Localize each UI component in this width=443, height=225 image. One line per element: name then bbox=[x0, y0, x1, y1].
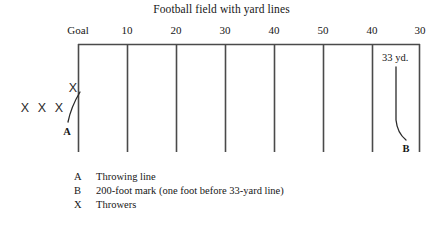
leader-line-b bbox=[396, 67, 406, 140]
legend: A Throwing line B 200-foot mark (one foo… bbox=[74, 170, 284, 213]
thrower-mark-x: X bbox=[38, 102, 46, 115]
legend-desc-a: Throwing line bbox=[96, 170, 156, 184]
label-a-throwing-line: A bbox=[63, 126, 71, 137]
thrower-mark-x: X bbox=[21, 102, 29, 115]
legend-key-a: A bbox=[74, 170, 96, 184]
legend-desc-x: Throwers bbox=[96, 198, 136, 212]
thrower-mark-x: X bbox=[55, 102, 63, 115]
legend-row-b: B 200-foot mark (one foot before 33-yard… bbox=[74, 184, 284, 198]
legend-key-x: X bbox=[74, 198, 96, 212]
legend-row-a: A Throwing line bbox=[74, 170, 284, 184]
football-field-figure: Football field with yard lines Goal 10 2… bbox=[0, 0, 443, 225]
legend-desc-b: 200-foot mark (one foot before 33-yard l… bbox=[96, 184, 284, 198]
legend-key-b: B bbox=[74, 184, 96, 198]
legend-row-x: X Throwers bbox=[74, 198, 284, 212]
label-33-yard-distance: 33 yd. bbox=[382, 52, 408, 63]
label-b-mark: B bbox=[402, 143, 409, 154]
thrower-mark-x: X bbox=[69, 82, 77, 95]
